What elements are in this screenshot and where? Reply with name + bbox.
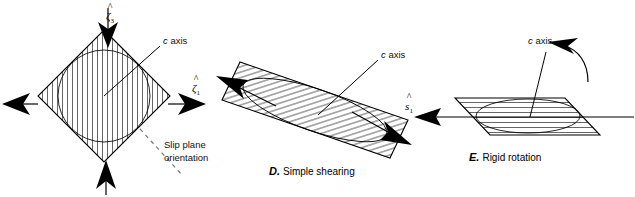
extension-arrow-right bbox=[168, 93, 206, 115]
diamond-hatch bbox=[30, 22, 180, 172]
caption-letter-e: E. bbox=[469, 151, 479, 163]
panel-simple-shearing: c axis D.Simple shearing bbox=[215, 49, 415, 177]
c-axis-label-panel-c: c axis bbox=[163, 35, 188, 46]
axis-label-s1-sub: 1 bbox=[409, 107, 413, 115]
svg-text:ζ1: ζ1 bbox=[192, 82, 200, 97]
figure-canvas: ^ ζ3 ^ ζ1 c axis Slip plane orientation bbox=[0, 0, 635, 197]
caption-panel-d: D.Simple shearing bbox=[269, 165, 355, 177]
figure-root: ^ ζ3 ^ ζ1 c axis Slip plane orientation bbox=[0, 0, 635, 197]
c-axis-label-panel-d: c axis bbox=[381, 49, 406, 60]
c-axis-label-rest-d: axis bbox=[386, 49, 406, 60]
caption-letter-d: D. bbox=[269, 165, 280, 177]
c-axis-label-rest-e: axis bbox=[533, 35, 553, 46]
extension-arrow-left bbox=[2, 93, 38, 115]
shear-parallelogram-hatch bbox=[215, 55, 415, 165]
axis-label-zeta3: ^ ζ3 bbox=[106, 1, 114, 25]
svg-text:ζ3: ζ3 bbox=[106, 10, 114, 25]
axis-label-zeta3-sub: 3 bbox=[110, 17, 114, 25]
axis-label-s1: ^ s1 bbox=[405, 91, 413, 115]
panel-pure-shear: ^ ζ3 ^ ζ1 c axis Slip plane orientation bbox=[2, 1, 208, 195]
caption-text-e: Rigid rotation bbox=[482, 152, 541, 163]
caption-panel-e: E.Rigid rotation bbox=[469, 151, 541, 163]
c-axis-label-panel-e: c axis bbox=[528, 35, 553, 46]
rotation-arrow-curved bbox=[548, 38, 588, 82]
panel-rigid-rotation: c axis ^ s1 E.Rigid rotation bbox=[405, 35, 634, 163]
svg-text:s1: s1 bbox=[405, 100, 413, 115]
compression-arrow-bottom bbox=[96, 160, 116, 195]
caption-text-d: Simple shearing bbox=[283, 166, 355, 177]
slip-plane-label-line2: orientation bbox=[164, 152, 208, 163]
axis-label-zeta1: ^ ζ1 bbox=[192, 73, 200, 97]
axis-label-zeta1-sub: 1 bbox=[196, 89, 200, 97]
slip-plane-label-line1: Slip plane bbox=[164, 139, 206, 150]
c-axis-label-rest: axis bbox=[168, 35, 188, 46]
